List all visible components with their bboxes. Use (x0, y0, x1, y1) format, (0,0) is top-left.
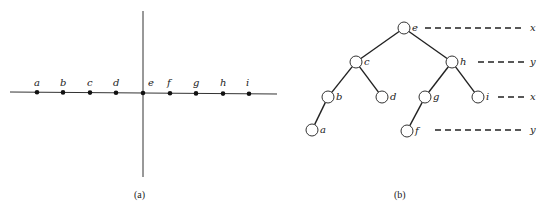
edge-e-c (361, 31, 399, 58)
point-label-i: i (246, 77, 249, 88)
panel-b-kd-tree: xyxy echbdgiaf (b) (306, 22, 536, 201)
tree-node-c (350, 56, 362, 68)
point-label-e: e (148, 77, 154, 88)
tree-node-label-e: e (412, 22, 418, 33)
tree-node-a (306, 124, 318, 136)
level-label-x: x (530, 91, 536, 102)
edge-h-g (429, 67, 449, 92)
tree-node-label-g: g (433, 91, 439, 102)
tree-node-f (401, 125, 413, 137)
edge-h-i (456, 67, 475, 92)
edge-b-a (315, 102, 326, 124)
point-d (114, 90, 119, 95)
point-i (247, 91, 252, 96)
panel-b-caption: (b) (394, 189, 406, 201)
edge-g-f (410, 102, 422, 125)
point-label-d: d (113, 77, 119, 88)
level-label-y: y (529, 56, 536, 67)
tree-node-b (322, 91, 334, 103)
tree-node-label-a: a (320, 124, 326, 135)
tree-node-d (376, 91, 388, 103)
tree-node-label-d: d (390, 91, 396, 102)
tree-node-i (472, 91, 484, 103)
point-label-a: a (34, 77, 40, 88)
point-b (61, 90, 66, 95)
point-label-b: b (60, 77, 66, 88)
tree-node-label-b: b (336, 91, 342, 102)
point-g (194, 91, 199, 96)
tree-node-label-h: h (460, 56, 466, 67)
panel-a-number-line: abcdefghi (a) (10, 11, 277, 201)
point-label-c: c (87, 77, 93, 88)
tree-node-h (446, 56, 458, 68)
level-label-x: x (530, 22, 536, 33)
point-c (88, 90, 93, 95)
panel-a-caption: (a) (134, 189, 145, 201)
figure-canvas: abcdefghi (a) xyxy echbdgiaf (b) (0, 0, 555, 209)
tree-node-g (419, 91, 431, 103)
point-e (141, 91, 146, 96)
point-label-f: f (166, 77, 173, 88)
edge-c-b (332, 67, 353, 93)
level-label-y: y (529, 124, 536, 135)
tree-node-label-i: i (486, 91, 489, 102)
tree-node-label-c: c (364, 56, 370, 67)
edge-e-h (409, 31, 447, 58)
point-label-h: h (220, 77, 226, 88)
point-h (221, 91, 226, 96)
edge-c-d (360, 67, 379, 92)
tree-node-label-f: f (414, 125, 421, 136)
tree-node-e (398, 22, 410, 34)
point-label-g: g (193, 77, 199, 88)
point-f (168, 91, 173, 96)
point-a (35, 90, 40, 95)
